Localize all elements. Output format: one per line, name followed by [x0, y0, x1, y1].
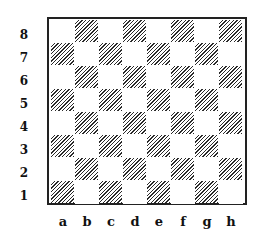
square-e6 — [147, 66, 171, 89]
square-h2 — [219, 158, 242, 180]
square-a5 — [51, 89, 74, 111]
square-d7 — [123, 43, 147, 66]
square-g2 — [195, 158, 219, 181]
rank-label-5: 5 — [17, 97, 31, 111]
square-a1 — [51, 181, 74, 203]
square-b4 — [75, 112, 98, 134]
square-d8 — [123, 20, 146, 42]
square-d2 — [123, 158, 146, 180]
square-f1 — [171, 181, 195, 204]
square-b6 — [75, 66, 98, 88]
square-g7 — [195, 43, 218, 65]
file-label-e: e — [147, 215, 171, 229]
file-label-c: c — [99, 215, 123, 229]
square-e5 — [147, 89, 170, 111]
square-b7 — [75, 43, 99, 66]
square-a2 — [51, 158, 75, 181]
rank-label-3: 3 — [17, 143, 31, 157]
rank-label-6: 6 — [17, 74, 31, 88]
rank-label-7: 7 — [17, 51, 31, 65]
square-h4 — [219, 112, 242, 134]
square-b5 — [75, 89, 99, 112]
rank-label-2: 2 — [17, 166, 31, 180]
square-b2 — [75, 158, 98, 180]
file-label-h: h — [219, 215, 243, 229]
square-d6 — [123, 66, 146, 88]
rank-label-8: 8 — [17, 28, 31, 42]
square-c6 — [99, 66, 123, 89]
square-h8 — [219, 20, 242, 42]
square-a4 — [51, 112, 75, 135]
square-c4 — [99, 112, 123, 135]
square-h7 — [219, 43, 243, 66]
square-e4 — [147, 112, 171, 135]
square-h1 — [219, 181, 243, 204]
square-f3 — [171, 135, 195, 158]
square-f4 — [171, 112, 194, 134]
square-g8 — [195, 20, 219, 43]
square-b8 — [75, 20, 98, 42]
rank-label-1: 1 — [17, 189, 31, 203]
square-b1 — [75, 181, 99, 204]
square-c8 — [99, 20, 123, 43]
rank-label-4: 4 — [17, 120, 31, 134]
square-c7 — [99, 43, 122, 65]
file-label-g: g — [195, 215, 219, 229]
square-g4 — [195, 112, 219, 135]
square-g5 — [195, 89, 218, 111]
square-c3 — [99, 135, 122, 157]
square-f7 — [171, 43, 195, 66]
square-b3 — [75, 135, 99, 158]
file-label-d: d — [123, 215, 147, 229]
square-h3 — [219, 135, 243, 158]
file-label-f: f — [171, 215, 195, 229]
square-d3 — [123, 135, 147, 158]
square-d5 — [123, 89, 147, 112]
square-e2 — [147, 158, 171, 181]
square-f6 — [171, 66, 194, 88]
square-f2 — [171, 158, 194, 180]
chessboard — [47, 17, 247, 205]
square-g1 — [195, 181, 218, 203]
square-d4 — [123, 112, 146, 134]
square-g3 — [195, 135, 218, 157]
file-label-b: b — [75, 215, 99, 229]
board-grid — [51, 20, 243, 204]
square-f5 — [171, 89, 195, 112]
square-d1 — [123, 181, 147, 204]
square-c2 — [99, 158, 123, 181]
square-h5 — [219, 89, 243, 112]
square-e7 — [147, 43, 170, 65]
square-e3 — [147, 135, 170, 157]
square-c5 — [99, 89, 122, 111]
file-label-a: a — [51, 215, 75, 229]
square-a3 — [51, 135, 74, 157]
square-a8 — [51, 20, 75, 43]
square-h6 — [219, 66, 242, 88]
square-c1 — [99, 181, 122, 203]
square-a6 — [51, 66, 75, 89]
square-f8 — [171, 20, 194, 42]
square-a7 — [51, 43, 74, 65]
square-e1 — [147, 181, 170, 203]
square-e8 — [147, 20, 171, 43]
square-g6 — [195, 66, 219, 89]
